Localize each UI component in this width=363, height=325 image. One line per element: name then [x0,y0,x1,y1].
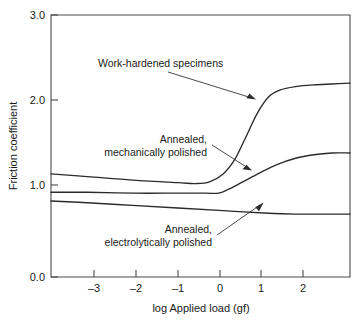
x-tick-label-3: 0 [217,282,223,294]
arrow-head-work-hardened [247,94,257,100]
annotation-annealed-electrolytic-line2: electrolytically polished [105,236,213,248]
curve-annealed-mechanically-polished [51,153,350,194]
x-tick-label-4: 1 [258,282,264,294]
y-axis-title: Friction coefficient [7,102,19,190]
x-tick-label-5: 2 [300,282,306,294]
x-axis-title: log Applied load (gf) [152,302,249,314]
annotation-annealed-mechanical-line1: Annealed, [160,133,207,145]
curve-annealed-electrolytically-polished [51,201,350,214]
y-tick-label-3: 3.0 [30,9,45,21]
annotation-work-hardened-label: Work-hardened specimens [98,57,223,69]
x-tick-labels: –3 –2 –1 0 1 2 [88,282,306,294]
x-tick-label-2: –1 [172,282,184,294]
y-tick-label-1: 1.0 [30,179,45,191]
y-tick-labels: 0.0 1.0 2.0 3.0 [30,9,45,283]
annotation-annealed-mechanical-line2: mechanically polished [104,146,207,158]
y-tick-label-0: 0.0 [30,271,45,283]
y-tick-label-2: 2.0 [30,94,45,106]
annotation-work-hardened: Work-hardened specimens [98,57,223,69]
x-tick-label-0: –3 [88,282,100,294]
annotation-annealed-electrolytic: Annealed, electrolytically polished [105,223,213,248]
plot-canvas: 0.0 1.0 2.0 3.0 –3 –2 –1 0 1 2 log Appli… [0,0,363,325]
leader-work-hardened [168,72,252,98]
annotation-annealed-electrolytic-line1: Annealed, [165,223,212,235]
y-axis-ticks [51,15,58,277]
x-axis-ticks [94,270,303,277]
x-tick-label-1: –2 [130,282,142,294]
leader-annealed-electrolytic [217,205,260,235]
leader-annealed-mechanical [212,145,248,168]
arrow-head-annealed-electrolytic [255,203,263,212]
friction-coefficient-chart: 0.0 1.0 2.0 3.0 –3 –2 –1 0 1 2 log Appli… [0,0,363,325]
annotation-annealed-mechanical: Annealed, mechanically polished [104,133,207,158]
